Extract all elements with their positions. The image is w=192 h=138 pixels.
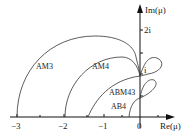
x-tick-m3: −3 bbox=[11, 121, 21, 131]
y-tick-i: i bbox=[144, 65, 147, 75]
curve-ab4 bbox=[129, 98, 140, 117]
label-am3: AM3 bbox=[36, 62, 53, 71]
y-tick-2i: 2i bbox=[144, 25, 152, 35]
stability-diagram: Im(μ) 2i i −3 −2 −1 0 Re(μ) AM3 AM4 ABM4… bbox=[0, 0, 192, 138]
curve-abm43-loop bbox=[140, 80, 156, 98]
im-axis-label: Im(μ) bbox=[145, 5, 166, 15]
im-axis-arrow-icon bbox=[137, 4, 143, 13]
x-tick-0: 0 bbox=[137, 121, 142, 131]
re-axis-arrow-icon bbox=[166, 114, 175, 120]
label-am4: AM4 bbox=[92, 62, 109, 71]
label-abm43: ABM43 bbox=[109, 88, 135, 97]
re-axis-label: Re(μ) bbox=[160, 121, 181, 131]
x-tick-m1: −1 bbox=[98, 121, 108, 131]
x-tick-m2: −2 bbox=[58, 121, 68, 131]
label-ab4: AB4 bbox=[111, 102, 126, 111]
